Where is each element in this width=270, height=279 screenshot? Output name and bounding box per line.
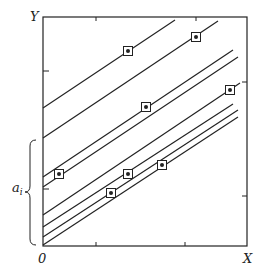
data-point-markers <box>55 33 235 198</box>
regression-line <box>43 50 233 177</box>
y-axis-label: Y <box>30 9 40 24</box>
data-point <box>192 33 201 42</box>
data-point <box>226 86 235 95</box>
brace-label: ai <box>12 180 23 197</box>
dot-icon <box>160 163 164 167</box>
data-point <box>124 170 133 179</box>
regression-line <box>43 20 175 108</box>
dot-icon <box>109 191 113 195</box>
data-point <box>124 47 133 56</box>
regression-line <box>43 104 233 227</box>
dot-icon <box>57 172 61 176</box>
data-point <box>158 161 167 170</box>
data-point <box>55 170 64 179</box>
parallel-lines-diagram: Y X 0 ai <box>0 0 270 279</box>
dot-icon <box>194 35 198 39</box>
dot-icon <box>126 172 130 176</box>
data-point <box>142 103 151 112</box>
origin-label: 0 <box>38 251 46 266</box>
regression-lines <box>43 20 240 245</box>
regression-line <box>43 110 238 237</box>
dot-icon <box>126 49 130 53</box>
regression-line <box>43 117 238 245</box>
x-axis-label: X <box>242 251 253 266</box>
regression-line <box>43 57 238 187</box>
data-point <box>107 189 116 198</box>
dot-icon <box>228 88 232 92</box>
dot-icon <box>144 105 148 109</box>
brace-icon <box>25 140 36 245</box>
